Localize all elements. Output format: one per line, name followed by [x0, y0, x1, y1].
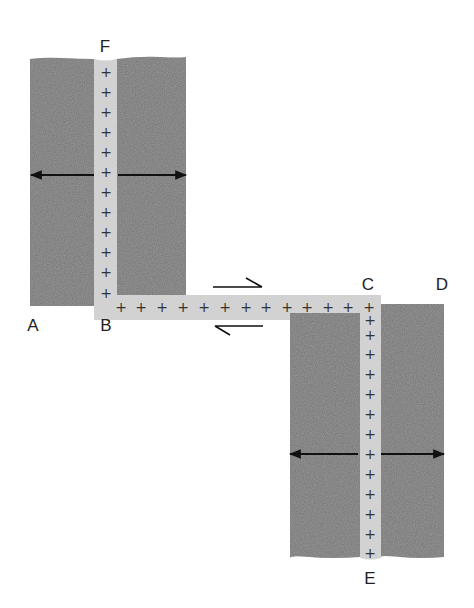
- plus-mark: +: [100, 204, 112, 220]
- plus-mark: +: [364, 466, 376, 482]
- plus-mark: +: [342, 299, 354, 315]
- plus-mark: +: [100, 285, 112, 301]
- plus-mark: +: [364, 327, 376, 343]
- plus-mark: +: [364, 506, 376, 522]
- upper-left-crust-block: [30, 58, 94, 306]
- plus-mark: +: [301, 299, 313, 315]
- plus-mark: +: [100, 144, 112, 160]
- plus-mark: +: [364, 446, 376, 462]
- plus-mark: +: [100, 104, 112, 120]
- plus-mark: +: [198, 299, 210, 315]
- plus-mark: +: [240, 299, 252, 315]
- plus-mark: +: [364, 312, 376, 328]
- plus-mark: +: [100, 224, 112, 240]
- plus-mark: +: [100, 64, 112, 80]
- plus-mark: +: [115, 299, 127, 315]
- lower-right-crust-block: [381, 304, 444, 558]
- plus-mark: +: [364, 426, 376, 442]
- plus-mark: +: [364, 526, 376, 542]
- plus-mark: +: [100, 264, 112, 280]
- plus-mark: +: [260, 299, 272, 315]
- plus-mark: +: [135, 299, 147, 315]
- label-a: A: [27, 316, 39, 335]
- plus-mark: +: [364, 366, 376, 382]
- plus-mark: +: [364, 406, 376, 422]
- plus-mark: +: [100, 184, 112, 200]
- plus-mark: +: [100, 244, 112, 260]
- label-e: E: [364, 569, 375, 588]
- plus-mark: +: [100, 124, 112, 140]
- plus-mark: +: [364, 486, 376, 502]
- plus-mark: +: [177, 299, 189, 315]
- plus-mark: +: [364, 346, 376, 362]
- lower-shear-half-arrow: [215, 326, 263, 335]
- upper-shear-half-arrow: [213, 278, 262, 287]
- plus-mark: +: [219, 299, 231, 315]
- plus-mark: +: [100, 164, 112, 180]
- lower-left-crust-block: [290, 313, 360, 558]
- plus-mark: +: [100, 84, 112, 100]
- plus-mark: +: [364, 545, 376, 561]
- plus-mark: +: [322, 299, 334, 315]
- label-b: B: [100, 316, 111, 335]
- label-c: C: [362, 275, 374, 294]
- plus-mark: +: [281, 299, 293, 315]
- plus-mark: +: [364, 386, 376, 402]
- label-d: D: [436, 275, 448, 294]
- plus-mark: +: [156, 299, 168, 315]
- transform-fault-diagram: ++++++++++++ +++++++++++++ +++++++++++++…: [0, 0, 474, 608]
- label-f: F: [100, 37, 110, 56]
